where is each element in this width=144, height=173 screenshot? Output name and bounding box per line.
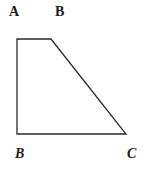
vertex-label-b-bottom: B [15, 147, 24, 161]
vertex-label-a: A [9, 5, 19, 19]
vertex-label-c: C [127, 147, 136, 161]
vertex-label-b-top: B [55, 5, 64, 19]
trapezoid-shape [17, 39, 126, 134]
